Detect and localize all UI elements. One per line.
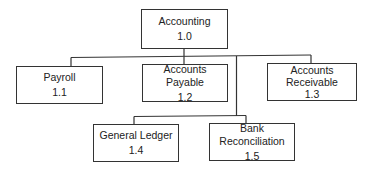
node-label: Accounting (159, 15, 211, 28)
node-general-ledger: General Ledger 1.4 (93, 124, 179, 162)
node-payroll: Payroll 1.1 (16, 66, 103, 104)
node-number: 1.0 (177, 30, 192, 43)
connector-lower-bus (134, 116, 246, 117)
node-label: General Ledger (100, 129, 173, 142)
node-number: 1.5 (245, 150, 260, 163)
node-label-line-1: Accounts (290, 64, 333, 76)
node-number: 1.1 (52, 86, 67, 99)
node-label: Payroll (43, 71, 75, 84)
connector-main-bus (71, 55, 311, 58)
node-label-line-2: Receivable (286, 76, 338, 88)
node-bank-reconciliation: Bank Reconciliation 1.5 (209, 123, 295, 161)
node-number: 1.2 (178, 91, 193, 104)
node-number: 1.4 (129, 144, 144, 157)
node-label: Accounts Payable (143, 63, 227, 89)
node-accounts-payable: Accounts Payable 1.2 (142, 64, 228, 102)
node-accounts-receivable: Accounts Receivable 1.3 (267, 63, 357, 101)
node-label: Bank Reconciliation (210, 122, 294, 148)
node-number: 1.3 (305, 88, 320, 100)
node-accounting: Accounting 1.0 (141, 9, 228, 49)
